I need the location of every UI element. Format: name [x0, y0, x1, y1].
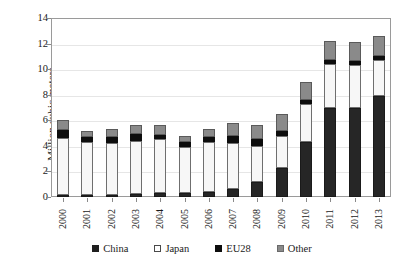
bar-segment-china[interactable] — [130, 194, 142, 197]
bar-segment-japan[interactable] — [276, 136, 288, 168]
bar-segment-japan[interactable] — [324, 64, 336, 107]
y-axis-tick-label: 4 — [8, 141, 48, 151]
bar-column[interactable] — [227, 18, 239, 197]
stacked-bar[interactable] — [81, 131, 93, 197]
bar-segment-japan[interactable] — [57, 138, 69, 195]
y-axis-tick-label: 2 — [8, 166, 48, 176]
bar-column[interactable] — [81, 18, 93, 197]
bar-segment-china[interactable] — [81, 195, 93, 197]
legend-label: Japan — [165, 243, 189, 254]
bar-column[interactable] — [130, 18, 142, 197]
stacked-bar[interactable] — [373, 36, 385, 197]
x-axis-tick-label: 2004 — [155, 199, 165, 239]
x-axis-tick-mark — [87, 198, 88, 202]
bar-segment-japan[interactable] — [106, 143, 118, 195]
bar-segment-japan[interactable] — [179, 147, 191, 193]
stacked-bar[interactable] — [251, 125, 263, 197]
bar-segment-other[interactable] — [203, 129, 215, 137]
bar-column[interactable] — [57, 18, 69, 197]
x-axis-tick-mark — [257, 198, 258, 202]
stacked-bar[interactable] — [179, 136, 191, 197]
legend-label: Other — [288, 243, 312, 254]
x-axis-tick-mark — [63, 198, 64, 202]
bar-segment-china[interactable] — [227, 189, 239, 197]
x-axis-tick-group: 2000200120022003200420052006200720082009… — [51, 198, 391, 238]
x-axis-tick-mark — [379, 198, 380, 202]
bar-column[interactable] — [324, 18, 336, 197]
y-axis-tick-label: 12 — [8, 39, 48, 49]
bar-segment-china[interactable] — [106, 195, 118, 197]
bar-segment-other[interactable] — [154, 125, 166, 135]
bar-segment-japan[interactable] — [373, 60, 385, 96]
stacked-bar[interactable] — [154, 125, 166, 197]
bar-segment-other[interactable] — [106, 129, 118, 137]
legend-item-china[interactable]: China — [92, 243, 128, 254]
legend-item-eu28[interactable]: EU28 — [215, 243, 251, 254]
bar-column[interactable] — [203, 18, 215, 197]
bar-segment-japan[interactable] — [154, 139, 166, 193]
bar-segment-japan[interactable] — [227, 143, 239, 189]
bar-segment-eu28[interactable] — [57, 130, 69, 138]
bar-segment-eu28[interactable] — [227, 136, 239, 144]
bar-segment-china[interactable] — [300, 142, 312, 197]
y-axis-tick-label: 14 — [8, 13, 48, 23]
x-axis-tick-label: 2005 — [180, 199, 190, 239]
bar-column[interactable] — [154, 18, 166, 197]
bar-segment-japan[interactable] — [81, 142, 93, 195]
bar-segment-china[interactable] — [57, 195, 69, 197]
x-axis-tick-label: 2013 — [374, 199, 384, 239]
bar-segment-china[interactable] — [373, 96, 385, 197]
x-axis-tick-mark — [330, 198, 331, 202]
bar-segment-japan[interactable] — [251, 146, 263, 182]
x-axis-tick-mark — [282, 198, 283, 202]
stacked-bar[interactable] — [227, 123, 239, 197]
stacked-bar[interactable] — [130, 125, 142, 197]
stacked-bar[interactable] — [300, 82, 312, 197]
stacked-bar[interactable] — [276, 114, 288, 197]
bar-segment-china[interactable] — [203, 192, 215, 197]
bar-segment-japan[interactable] — [203, 142, 215, 192]
bar-segment-other[interactable] — [251, 125, 263, 139]
bar-segment-other[interactable] — [373, 36, 385, 56]
bar-segment-china[interactable] — [276, 168, 288, 197]
x-axis-tick-label: 2012 — [350, 199, 360, 239]
x-axis-tick-mark — [355, 198, 356, 202]
x-axis-tick-label: 2011 — [325, 199, 335, 239]
bar-segment-china[interactable] — [179, 193, 191, 197]
x-axis-tick-mark — [112, 198, 113, 202]
x-axis-tick-label: 2001 — [82, 199, 92, 239]
x-axis-tick-mark — [209, 198, 210, 202]
bar-segment-other[interactable] — [57, 120, 69, 130]
bar-segment-china[interactable] — [349, 108, 361, 198]
x-axis-tick-label: 2009 — [277, 199, 287, 239]
bar-column[interactable] — [276, 18, 288, 197]
x-axis-tick-label: 2003 — [131, 199, 141, 239]
bar-segment-other[interactable] — [349, 42, 361, 61]
chart-legend: ChinaJapanEU28Other — [0, 243, 404, 254]
bar-segment-other[interactable] — [300, 82, 312, 100]
bar-segment-china[interactable] — [251, 182, 263, 197]
legend-item-other[interactable]: Other — [277, 243, 312, 254]
stacked-bar[interactable] — [106, 129, 118, 197]
bar-segment-other[interactable] — [130, 125, 142, 134]
stacked-bar[interactable] — [324, 41, 336, 197]
bar-column[interactable] — [373, 18, 385, 197]
bar-column[interactable] — [300, 18, 312, 197]
bar-column[interactable] — [251, 18, 263, 197]
bar-segment-other[interactable] — [227, 123, 239, 136]
y-axis-tick-label: 8 — [8, 90, 48, 100]
bar-column[interactable] — [179, 18, 191, 197]
stacked-bar[interactable] — [203, 129, 215, 197]
bar-segment-other[interactable] — [324, 41, 336, 60]
legend-item-japan[interactable]: Japan — [154, 243, 189, 254]
bar-segment-other[interactable] — [276, 114, 288, 131]
bar-segment-china[interactable] — [324, 108, 336, 198]
bar-segment-japan[interactable] — [130, 141, 142, 195]
bar-segment-japan[interactable] — [349, 65, 361, 107]
bar-column[interactable] — [106, 18, 118, 197]
stacked-bar[interactable] — [57, 120, 69, 197]
bar-segment-china[interactable] — [154, 193, 166, 197]
stacked-bar[interactable] — [349, 42, 361, 197]
bar-segment-japan[interactable] — [300, 104, 312, 142]
bar-column[interactable] — [349, 18, 361, 197]
